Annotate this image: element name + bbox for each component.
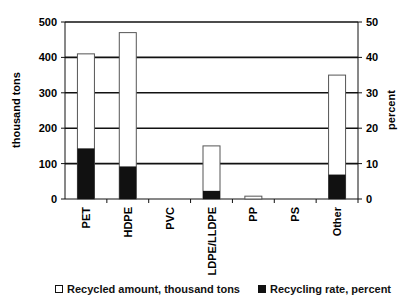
- x-tick-label: PET: [80, 207, 92, 229]
- x-tick-label: LDPE/LLDPE: [206, 207, 218, 275]
- legend-label: Recycling rate, percent: [270, 283, 391, 295]
- bar-rate: [329, 175, 346, 199]
- legend: Recycled amount, thousand tons Recycling…: [55, 283, 391, 295]
- x-tick-label: PP: [247, 207, 259, 222]
- chart: 010020030040050001020304050PETHDPEPVCLDP…: [0, 0, 417, 306]
- y-right-tick-label: 50: [366, 16, 378, 28]
- y-axis-title: thousand tons: [10, 72, 22, 148]
- x-tick-label: PVC: [164, 207, 176, 230]
- bar-rate: [203, 191, 220, 199]
- bar-rate: [119, 166, 136, 199]
- y-right-tick-label: 10: [366, 158, 378, 170]
- legend-swatch-black: [258, 285, 266, 293]
- y-tick-label: 0: [51, 193, 57, 205]
- bar-rate: [77, 148, 94, 199]
- y-right-tick-label: 20: [366, 122, 378, 134]
- y-tick-label: 400: [39, 51, 57, 63]
- legend-item-amount: Recycled amount, thousand tons: [55, 283, 240, 295]
- y-tick-label: 100: [39, 158, 57, 170]
- x-tick-label: PS: [289, 207, 301, 222]
- y-tick-label: 500: [39, 16, 57, 28]
- x-tick-label: Other: [331, 206, 343, 236]
- y-tick-label: 200: [39, 122, 57, 134]
- x-tick-label: HDPE: [122, 207, 134, 238]
- legend-swatch-white: [55, 285, 63, 293]
- y-axis-right-title: percent: [385, 90, 397, 130]
- y-right-tick-label: 0: [366, 193, 372, 205]
- y-right-tick-label: 30: [366, 87, 378, 99]
- legend-item-rate: Recycling rate, percent: [258, 283, 391, 295]
- y-tick-label: 300: [39, 87, 57, 99]
- legend-label: Recycled amount, thousand tons: [67, 283, 240, 295]
- bar-amount: [245, 196, 262, 199]
- y-right-tick-label: 40: [366, 51, 378, 63]
